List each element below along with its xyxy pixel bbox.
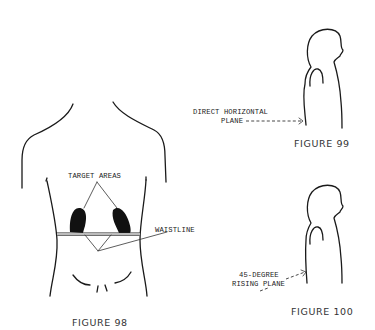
figure-98: TARGET AREAS WAISTLINE FIGURE 98 [22,102,195,328]
torso-back-outline [22,102,166,296]
waistline-band [57,233,140,236]
rising-plane-tail [260,288,268,291]
right-shoulder-line [113,102,166,182]
figure-100: 45-DEGREE RISING PLANE FIGURE 100 [232,185,353,317]
plane-100-label-line1: 45-DEGREE [239,271,279,279]
plane-99-label-line1: DIRECT HORIZONTAL [193,108,268,116]
figure-98-caption: FIGURE 98 [72,317,128,328]
waistline-label: WAISTLINE [155,226,195,234]
arm-curve-100 [310,227,323,244]
target-pointer-left [84,182,97,208]
left-torso-side [47,181,57,296]
plane-99-label-line2: PLANE [221,117,243,125]
target-pointer-right [97,182,117,208]
figure-99: DIRECT HORIZONTAL PLANE FIGURE 99 [193,29,350,149]
target-area-left [70,208,86,233]
target-area-right [113,208,131,233]
figure-100-caption: FIGURE 100 [291,306,353,317]
illustration-canvas: TARGET AREAS WAISTLINE FIGURE 98 DIRECT … [0,0,375,330]
left-buttock-curve [73,275,90,285]
left-shoulder-line [22,104,73,188]
cleft-right [105,285,107,291]
target-areas-label: TARGET AREAS [68,172,121,180]
figure-99-caption: FIGURE 99 [294,138,350,149]
arm-curve-99 [310,69,323,86]
right-buttock-curve [115,272,131,283]
plane-100-label-line2: RISING PLANE [232,280,285,288]
rising-plane-arrow [286,272,305,279]
cleft-left [97,286,98,292]
